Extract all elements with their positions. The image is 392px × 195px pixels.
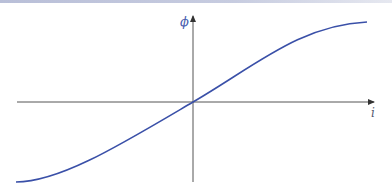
y-axis-label: ϕ [180,15,189,28]
x-axis-label: i [371,107,375,120]
chart-canvas [0,0,392,195]
